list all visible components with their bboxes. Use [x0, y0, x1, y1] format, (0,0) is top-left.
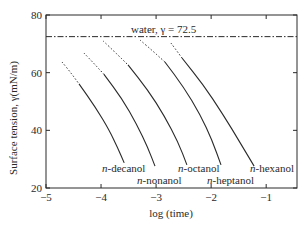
heptanol-solid-curve [165, 62, 221, 165]
decanol-label: n-decanol [102, 162, 145, 174]
x-tick-label: −4 [95, 191, 107, 203]
y-tick-label: 20 [31, 182, 43, 194]
octanol-label: n-octanol [178, 162, 220, 174]
decanol-solid-curve [79, 84, 124, 163]
hexanol-label: n-hexanol [250, 162, 294, 174]
hexanol-solid-curve [182, 58, 254, 166]
y-tick-label: 60 [31, 67, 43, 79]
decanol-dashed-curve [62, 62, 79, 84]
octanol-dashed-curve [103, 41, 128, 65]
hexanol-dashed-curve [171, 43, 182, 58]
nonanol-label: n-nonanol [137, 174, 182, 186]
water-annotation: water, γ = 72.5 [131, 23, 197, 35]
x-tick-label: −2 [205, 191, 217, 203]
surface-tension-chart: −5−4−3−2−120406080 n-decanoln-nonanoln-o… [0, 0, 306, 226]
curve-labels: n-decanoln-nonanoln-octanoln-heptanoln-h… [102, 162, 294, 186]
nonanol-dashed-curve [84, 53, 104, 74]
heptanol-dashed-curve [140, 40, 165, 62]
nonanol-solid-curve [104, 74, 155, 166]
heptanol-label: n-heptanol [207, 174, 254, 186]
y-tick-label: 40 [31, 124, 43, 136]
curves [62, 40, 254, 166]
y-axis-title: Surface tension, γ(mN/m) [7, 61, 20, 175]
x-axis-title: log (time) [149, 207, 193, 220]
x-tick-label: −3 [150, 191, 162, 203]
x-tick-label: −1 [260, 191, 272, 203]
y-tick-label: 80 [31, 9, 43, 21]
